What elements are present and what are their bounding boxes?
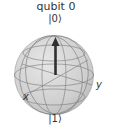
y-axis-label: y [96, 80, 102, 90]
x-axis-label: x [23, 92, 29, 102]
sphere-graphic [0, 0, 130, 127]
ket-one-label: |1⟩ [44, 113, 66, 124]
sphere-body [15, 36, 94, 115]
